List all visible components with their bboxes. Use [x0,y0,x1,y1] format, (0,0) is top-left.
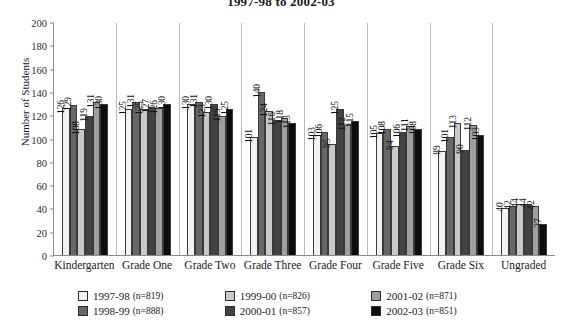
bar-group: 125131125127126130 [116,23,179,255]
bar-group: 404244444227 [492,23,555,255]
bar[interactable]: 112 [344,125,352,255]
chart-legend: 1997-98(n=819)1998-99(n=888)1999-00(n=82… [78,288,508,318]
bar[interactable]: 125 [125,109,133,255]
bar-value-label: 125 [220,101,230,115]
bar-value-label: 95 [322,139,332,148]
legend-series-count: (n=871) [426,291,457,301]
legend-item[interactable]: 2000-01(n=857) [225,303,362,318]
x-axis-category-label: Grade Five [367,259,430,277]
legend-swatch-icon [371,306,381,316]
bar-value-label: 115 [345,113,355,127]
legend-item[interactable]: 2001-02(n=871) [371,288,508,303]
legend-series-count: (n=888) [133,306,164,316]
bar[interactable]: 101 [446,137,454,255]
bar[interactable]: 130 [210,104,218,255]
bar[interactable]: 116 [273,120,281,255]
x-axis-category-label: Grade Six [430,259,493,277]
bar-value-label: 108 [377,121,387,135]
bar[interactable]: 103 [477,135,485,255]
legend-swatch-icon [78,291,88,301]
legend-swatch-icon [225,291,235,301]
bar[interactable]: 90 [461,150,469,255]
bar[interactable]: 106 [399,132,407,255]
bar[interactable]: 113 [454,123,462,255]
y-axis-tick-mark [50,256,54,257]
bar-value-label: 27 [533,218,543,227]
bar[interactable]: 113 [288,123,296,255]
legend-series-name: 1999-00 [240,290,277,302]
bar-group-inner: 10510894106111108 [376,23,422,255]
bar[interactable]: 105 [376,133,384,255]
bar[interactable]: 40 [501,208,509,255]
legend-series-count: (n=826) [279,291,310,301]
x-axis-category-label: Kindergarten [53,259,116,277]
bar[interactable]: 126 [155,108,163,255]
bar-group-inner: 8910111390112103 [438,23,484,255]
bar-group: 130131123130119125 [179,23,242,255]
bar[interactable]: 44 [524,204,532,255]
bar[interactable]: 131 [93,102,101,255]
bar[interactable]: 118 [281,118,289,255]
bar[interactable]: 94 [391,146,399,256]
x-axis-line [53,255,555,256]
bar-value-label: 130 [94,96,104,110]
bar-group: 101140124116118113 [241,23,304,255]
bar[interactable]: 131 [195,102,203,255]
bar[interactable]: 42 [532,206,540,255]
bar[interactable]: 112 [469,125,477,255]
bar[interactable]: 123 [203,112,211,255]
bar[interactable]: 111 [406,126,414,255]
bar[interactable]: 106 [321,132,329,255]
y-axis-title: Number of Students [19,22,31,182]
bar-value-label: 106 [314,124,324,138]
bar-value-label: 119 [79,109,89,123]
bar-value-label: 89 [432,146,442,155]
bar[interactable]: 119 [218,116,226,255]
bar[interactable]: 125 [336,109,344,255]
bar[interactable]: 119 [85,116,93,255]
bar[interactable]: 103 [313,135,321,255]
bar[interactable]: 130 [187,104,195,255]
bar[interactable]: 124 [265,111,273,255]
bar[interactable]: 125 [226,109,234,255]
bar-groups: 1261291081191311301251311251271261301301… [54,23,555,255]
legend-item[interactable]: 1997-98(n=819) [78,288,215,303]
bar-value-label: 130 [157,96,167,110]
bar-group: 10310695125112115 [304,23,367,255]
bar-group-inner: 404244444227 [501,23,547,255]
legend-item[interactable]: 1999-00(n=826) [225,288,362,303]
bar-group: 8910111390112103 [430,23,493,255]
bar[interactable]: 27 [539,224,547,255]
legend-series-name: 2002-03 [386,305,423,317]
legend-item[interactable]: 2002-03(n=851) [371,303,508,318]
bar[interactable]: 115 [351,121,359,255]
bar-group-inner: 101140124116118113 [250,23,296,255]
legend-series-count: (n=851) [426,306,457,316]
bar-group-inner: 126129108119131130 [62,23,108,255]
bar-group-inner: 10310695125112115 [313,23,359,255]
bar[interactable]: 125 [140,109,148,255]
bar[interactable]: 126 [62,108,70,255]
bar[interactable]: 95 [328,144,336,255]
bar[interactable]: 89 [438,151,446,255]
bar-value-label: 140 [252,84,262,98]
legend-series-count: (n=819) [133,291,164,301]
legend-item[interactable]: 1998-99(n=888) [78,303,215,318]
chart-title: 1997-98 to 2002-03 [0,0,562,10]
bar[interactable]: 42 [509,206,517,255]
bar[interactable]: 130 [163,104,171,255]
bar-value-label: 108 [408,121,418,135]
legend-swatch-icon [225,306,235,316]
legend-series-name: 2001-02 [386,290,423,302]
bar[interactable]: 101 [250,137,258,255]
legend-swatch-icon [78,306,88,316]
bar[interactable]: 44 [516,204,524,255]
bar[interactable]: 127 [148,107,156,255]
bar[interactable]: 130 [100,104,108,255]
bar-value-label: 113 [448,116,458,130]
bar[interactable]: 108 [77,129,85,255]
legend-series-name: 1997-98 [93,290,130,302]
bar[interactable]: 108 [414,129,422,255]
bar[interactable]: 131 [132,102,140,255]
x-axis-category-labels: KindergartenGrade OneGrade TwoGrade Thre… [53,259,555,277]
